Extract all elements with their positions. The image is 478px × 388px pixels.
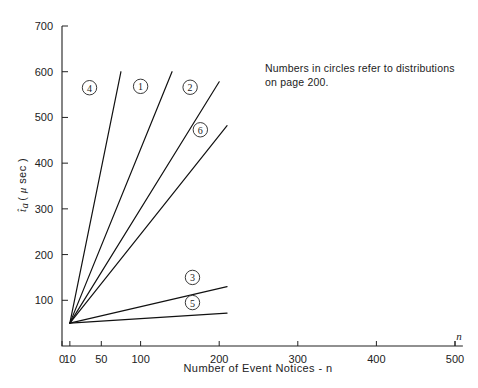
- series-marker-1: 1: [133, 79, 147, 93]
- chart-svg: 01050100200300400500 1002003004005006007…: [0, 0, 478, 388]
- series-label-5: 5: [190, 298, 195, 309]
- y-tick-label-700: 700: [35, 20, 53, 32]
- y-tick-label-500: 500: [35, 111, 53, 123]
- x-axis-title: Number of Event Notices - n: [184, 362, 333, 374]
- x-tick-label-400: 400: [367, 353, 385, 365]
- y-tick-label-200: 200: [35, 249, 53, 261]
- x-tick-label-100: 100: [131, 353, 149, 365]
- series-marker-3: 3: [185, 270, 199, 284]
- axes: [62, 26, 463, 346]
- axis-lines: [62, 26, 463, 346]
- x-tick-label-10: 10: [64, 353, 76, 365]
- x-tick-label-500: 500: [446, 353, 464, 365]
- annotation-line-2: on page 200.: [265, 76, 329, 88]
- annotation-line-1: Numbers in circles refer to distribution…: [265, 62, 455, 74]
- series-line-1: [70, 72, 172, 323]
- series-line-6: [70, 126, 227, 323]
- series-circled-labels: 412635: [82, 79, 207, 310]
- data-series-lines: [70, 72, 227, 323]
- y-tick-label-400: 400: [35, 157, 53, 169]
- y-tick-label-300: 300: [35, 203, 53, 215]
- y-tick-label-100: 100: [35, 294, 53, 306]
- x-axis-end-symbol: n: [456, 330, 462, 342]
- series-label-3: 3: [190, 272, 195, 283]
- series-label-6: 6: [198, 125, 203, 136]
- svg-text:t̂a( μ sec ): t̂a( μ sec ): [16, 158, 30, 213]
- x-tick-label-50: 50: [95, 353, 107, 365]
- series-label-2: 2: [188, 82, 193, 93]
- series-marker-5: 5: [185, 295, 199, 309]
- y-tick-labels: 100200300400500600700: [35, 20, 53, 306]
- series-line-4: [70, 72, 121, 323]
- series-label-1: 1: [138, 81, 143, 92]
- y-tick-label-600: 600: [35, 66, 53, 78]
- y-axis-title: t̂a( μ sec ): [16, 158, 30, 213]
- series-marker-4: 4: [82, 81, 96, 95]
- series-label-4: 4: [87, 83, 92, 94]
- series-marker-2: 2: [183, 80, 197, 94]
- series-marker-6: 6: [193, 123, 207, 137]
- series-line-2: [70, 82, 219, 323]
- chart-figure: 01050100200300400500 1002003004005006007…: [0, 0, 478, 388]
